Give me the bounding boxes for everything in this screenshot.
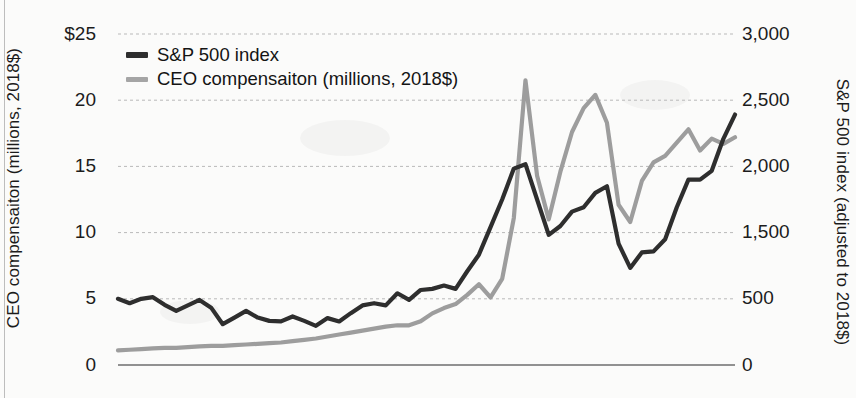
left-axis-tick-0: 0 [85,355,96,374]
right-axis-tick-2500: 2,500 [742,90,790,109]
right-axis-tick-0: 0 [742,355,753,374]
right-axis-tick-2000: 2,000 [742,156,790,175]
right-axis-tick-500: 500 [742,288,774,307]
left-axis-tick-15: 15 [75,156,96,175]
line-swatch-gray-icon [126,77,148,82]
left-axis-tick-10: 10 [75,222,96,241]
right-axis-title: S&P 500 index (adjusted to 2018$) [828,0,856,398]
left-axis-tick-5: 5 [85,288,96,307]
legend-label-ceo-compensation: CEO compensaiton (millions, 2018$) [157,68,458,90]
legend-entry-sp500: S&P 500 index [126,44,458,66]
legend-label-sp500: S&P 500 index [157,44,279,66]
series-line-sp500 [118,115,735,326]
left-axis-tick-25: $25 [64,24,96,43]
left-axis-title: CEO compensaiton (millions, 2018$) [0,0,28,398]
chart-legend: S&P 500 index CEO compensaiton (millions… [126,44,458,90]
chart-figure: CEO compensaiton (millions, 2018$) S&P 5… [0,0,856,398]
right-axis-tick-1500: 1,500 [742,222,790,241]
legend-entry-ceo-compensation: CEO compensaiton (millions, 2018$) [126,68,458,90]
left-axis-tick-20: 20 [75,90,96,109]
right-axis-tick-3000: 3,000 [742,24,790,43]
line-swatch-dark-icon [126,52,148,58]
